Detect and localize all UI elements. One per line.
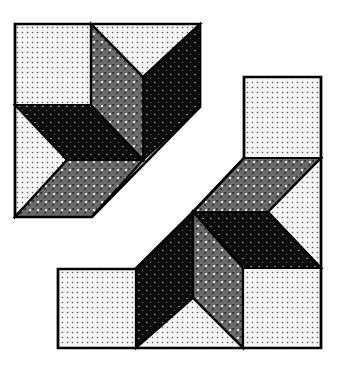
upper-left-block: [15, 24, 200, 217]
lower-right-square: [243, 268, 321, 348]
lower-top-square: [244, 77, 321, 158]
lower-left-square: [58, 269, 136, 348]
upper-square: [15, 24, 91, 105]
quilt-figure: [0, 0, 347, 369]
quilt-diagram: [0, 0, 347, 369]
